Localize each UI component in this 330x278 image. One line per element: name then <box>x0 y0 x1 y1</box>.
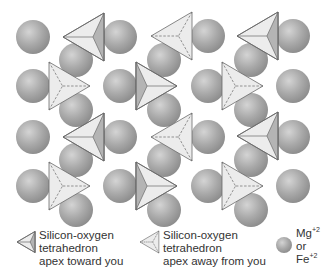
cation-sphere <box>276 169 310 203</box>
cation-sphere <box>276 237 292 253</box>
legend-away-line3: apex away from you <box>163 255 266 268</box>
legend-away-label: Silicon-oxygen tetrahedron apex away fro… <box>163 229 266 268</box>
legend-mg-charge: +2 <box>312 226 320 233</box>
legend-fe-charge: +2 <box>309 252 317 259</box>
legend-toward-line2: tetrahedron <box>39 242 123 255</box>
cation-sphere <box>103 20 137 54</box>
cation-sphere <box>276 120 310 154</box>
legend-away-line2: tetrahedron <box>163 242 266 255</box>
legend-cation-label: Mg+2 or Fe+2 <box>296 227 320 266</box>
cation-sphere <box>16 120 50 154</box>
cation-sphere <box>276 19 310 53</box>
tetrahedron-away-icon <box>140 231 159 253</box>
cation-sphere <box>16 69 50 103</box>
legend-away-line1: Silicon-oxygen <box>163 229 266 242</box>
legend-toward-line3: apex toward you <box>39 255 123 268</box>
cation-sphere <box>16 20 50 54</box>
cation-sphere <box>191 69 225 103</box>
cation-sphere <box>191 19 225 53</box>
cation-sphere <box>191 120 225 154</box>
tetrahedron-toward-icon <box>17 231 35 252</box>
cation-sphere <box>103 169 137 203</box>
legend-toward-label: Silicon-oxygen tetrahedron apex toward y… <box>39 229 123 268</box>
cation-sphere <box>16 169 50 203</box>
cation-sphere <box>191 169 225 203</box>
tetrahedron-toward <box>17 231 35 252</box>
cation-sphere <box>103 69 137 103</box>
legend-mg-text: Mg <box>296 227 312 239</box>
cation-sphere <box>103 120 137 154</box>
legend-fe-text: Fe <box>296 253 309 265</box>
cation-sphere <box>276 69 310 103</box>
tetrahedron-away <box>140 231 159 253</box>
sphere-icon <box>276 237 292 253</box>
legend-toward-line1: Silicon-oxygen <box>39 229 123 242</box>
